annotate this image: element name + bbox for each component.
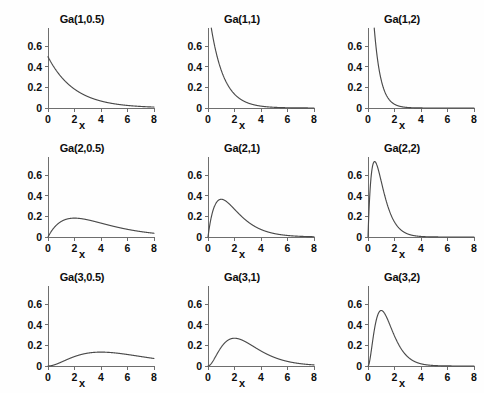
plot-panel-ga32: Ga(3,2)0246800.20.40.6x bbox=[322, 262, 482, 391]
y-tick-label: 0 bbox=[356, 231, 362, 243]
plot-area: 0246800.20.40.6 bbox=[322, 24, 482, 124]
density-curve bbox=[48, 57, 154, 107]
y-tick-label: 0.6 bbox=[347, 169, 362, 181]
x-axis-label: x bbox=[322, 119, 482, 131]
x-axis-label: x bbox=[2, 248, 162, 260]
x-axis-label: x bbox=[162, 377, 322, 389]
plot-panel-ga22: Ga(2,2)0246800.20.40.6x bbox=[322, 133, 482, 262]
y-tick-label: 0.2 bbox=[187, 81, 202, 93]
plot-panel-ga105: Ga(1,0.5)0246800.20.40.6x bbox=[2, 4, 162, 133]
y-tick-label: 0.4 bbox=[187, 61, 202, 73]
y-tick-label: 0.4 bbox=[27, 319, 42, 331]
plot-area: 0246800.20.40.6 bbox=[162, 282, 322, 382]
y-tick-label: 0.6 bbox=[187, 169, 202, 181]
y-tick-label: 0.4 bbox=[27, 61, 42, 73]
y-tick-label: 0 bbox=[36, 231, 42, 243]
y-tick-label: 0.6 bbox=[27, 40, 42, 52]
plot-panel-ga12: Ga(1,2)0246800.20.40.6x bbox=[322, 4, 482, 133]
gamma-distribution-figure: Ga(1,0.5)0246800.20.40.6xGa(1,1)0246800.… bbox=[0, 0, 484, 393]
plot-area: 0246800.20.40.6 bbox=[2, 282, 162, 382]
y-tick-label: 0.2 bbox=[187, 339, 202, 351]
y-tick-label: 0.4 bbox=[347, 190, 362, 202]
y-tick-label: 0.6 bbox=[27, 298, 42, 310]
density-curve bbox=[374, 28, 474, 108]
x-axis-label: x bbox=[322, 248, 482, 260]
density-curve bbox=[368, 162, 474, 237]
plot-panel-ga11: Ga(1,1)0246800.20.40.6x bbox=[162, 4, 322, 133]
x-axis-label: x bbox=[2, 119, 162, 131]
y-tick-label: 0.6 bbox=[187, 298, 202, 310]
y-tick-label: 0 bbox=[356, 102, 362, 114]
y-tick-label: 0.4 bbox=[187, 319, 202, 331]
y-tick-label: 0.4 bbox=[187, 190, 202, 202]
y-tick-label: 0 bbox=[196, 360, 202, 372]
panel-grid: Ga(1,0.5)0246800.20.40.6xGa(1,1)0246800.… bbox=[0, 0, 484, 393]
y-tick-label: 0.2 bbox=[347, 339, 362, 351]
density-curve bbox=[208, 338, 314, 366]
density-curve bbox=[48, 352, 154, 366]
y-tick-label: 0.4 bbox=[347, 61, 362, 73]
y-tick-label: 0 bbox=[356, 360, 362, 372]
x-axis-label: x bbox=[322, 377, 482, 389]
x-axis-label: x bbox=[162, 119, 322, 131]
y-tick-label: 0.4 bbox=[347, 319, 362, 331]
x-axis-label: x bbox=[2, 377, 162, 389]
y-tick-label: 0 bbox=[36, 102, 42, 114]
y-tick-label: 0.4 bbox=[27, 190, 42, 202]
y-tick-label: 0.2 bbox=[347, 81, 362, 93]
y-tick-label: 0.6 bbox=[347, 298, 362, 310]
y-tick-label: 0 bbox=[196, 231, 202, 243]
plot-panel-ga305: Ga(3,0.5)0246800.20.40.6x bbox=[2, 262, 162, 391]
density-curve bbox=[48, 218, 154, 237]
plot-panel-ga21: Ga(2,1)0246800.20.40.6x bbox=[162, 133, 322, 262]
y-tick-label: 0 bbox=[196, 102, 202, 114]
x-axis-label: x bbox=[162, 248, 322, 260]
y-tick-label: 0.2 bbox=[27, 210, 42, 222]
plot-area: 0246800.20.40.6 bbox=[322, 153, 482, 253]
plot-panel-ga31: Ga(3,1)0246800.20.40.6x bbox=[162, 262, 322, 391]
density-curve bbox=[208, 199, 314, 237]
y-tick-label: 0.2 bbox=[27, 81, 42, 93]
density-curve bbox=[368, 310, 474, 366]
plot-area: 0246800.20.40.6 bbox=[2, 24, 162, 124]
plot-area: 0246800.20.40.6 bbox=[2, 153, 162, 253]
y-tick-label: 0.2 bbox=[347, 210, 362, 222]
y-tick-label: 0.6 bbox=[187, 40, 202, 52]
y-tick-label: 0.6 bbox=[27, 169, 42, 181]
y-tick-label: 0.6 bbox=[347, 40, 362, 52]
plot-area: 0246800.20.40.6 bbox=[322, 282, 482, 382]
plot-panel-ga205: Ga(2,0.5)0246800.20.40.6x bbox=[2, 133, 162, 262]
density-curve bbox=[211, 28, 314, 108]
y-tick-label: 0.2 bbox=[27, 339, 42, 351]
plot-area: 0246800.20.40.6 bbox=[162, 24, 322, 124]
y-tick-label: 0.2 bbox=[187, 210, 202, 222]
plot-area: 0246800.20.40.6 bbox=[162, 153, 322, 253]
y-tick-label: 0 bbox=[36, 360, 42, 372]
